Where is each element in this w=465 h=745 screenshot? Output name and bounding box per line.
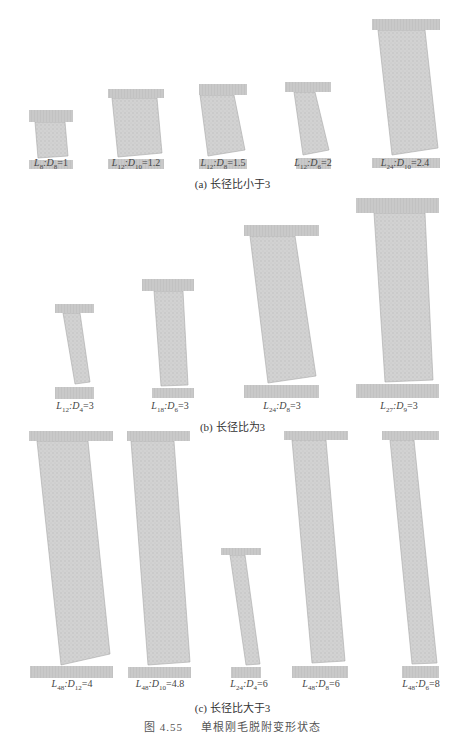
top-plate <box>55 304 94 313</box>
figure-caption: 图 4.55单根刚毛脱附变形状态 <box>0 718 465 734</box>
bristle-specimen <box>230 555 260 665</box>
specimen-label: L24:D10=2.4 <box>381 157 429 171</box>
panel-caption-b: (b) 长径比为3 <box>0 418 465 434</box>
bristle-specimen <box>154 291 188 386</box>
figure: L8:D8=1 L12:D10=1.2 L12:D8=1.5 L12:D6=2 … <box>0 0 465 745</box>
bottom-plate <box>292 666 348 678</box>
specimen-label: L48:D12=4 <box>52 678 93 692</box>
top-plate <box>221 548 261 555</box>
bristle-specimen <box>37 441 110 665</box>
bottom-plate <box>356 384 439 398</box>
specimen-label: L48:D8=6 <box>302 678 339 692</box>
specimen-label: L12:D10=1.2 <box>112 157 160 171</box>
top-plate <box>356 198 439 213</box>
specimen-label: L12:D4=3 <box>56 400 93 414</box>
panel-caption-c: (c) 长径比大于3 <box>0 699 465 715</box>
bottom-plate <box>128 667 191 678</box>
bristle-specimen <box>378 30 438 155</box>
specimen-label: L48:D10=4.8 <box>136 678 184 692</box>
bottom-plate <box>231 667 261 678</box>
bristle-specimen <box>294 92 329 155</box>
bristle-specimen <box>374 213 433 382</box>
top-plate <box>244 225 319 236</box>
bristle-specimen <box>200 95 245 156</box>
specimen-drawing <box>0 0 465 745</box>
bristle-specimen <box>131 441 190 665</box>
bottom-plate <box>152 388 194 398</box>
top-plate <box>372 19 440 30</box>
top-plate <box>142 279 194 291</box>
specimen-label: L24:D8=3 <box>263 400 300 414</box>
bristle-specimen <box>390 440 437 664</box>
specimen-label: L24:D4=6 <box>230 678 267 692</box>
specimen-label: L18:D6=3 <box>151 400 188 414</box>
top-plate <box>199 84 247 95</box>
bottom-plate <box>55 387 94 399</box>
top-plate <box>108 89 164 98</box>
figure-number: 图 4.55 <box>144 721 183 733</box>
bottom-plate <box>244 385 319 398</box>
specimen-label: L12:D6=2 <box>294 157 331 171</box>
panel-caption-a: (a) 长径比小于3 <box>0 175 465 191</box>
top-plate <box>285 82 331 92</box>
specimen-label: L27:D9=3 <box>380 400 417 414</box>
specimen-label: L8:D8=1 <box>34 157 68 171</box>
specimen-label: L12:D8=1.5 <box>201 157 246 171</box>
bristle-specimen <box>63 313 90 384</box>
specimen-label: L48:D6=8 <box>402 678 439 692</box>
figure-title: 单根刚毛脱附变形状态 <box>201 721 321 733</box>
bristle-specimen <box>35 122 68 158</box>
bristle-specimen <box>112 98 162 157</box>
bottom-plate <box>30 666 113 678</box>
top-plate <box>29 110 73 122</box>
bottom-plate <box>402 666 439 678</box>
bristle-specimen <box>250 236 316 383</box>
bristle-specimen <box>292 440 345 663</box>
